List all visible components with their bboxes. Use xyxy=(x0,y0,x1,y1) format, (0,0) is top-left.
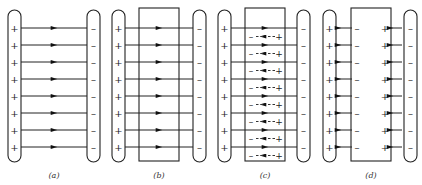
minus-charge: – xyxy=(197,57,202,68)
surface-minus: – xyxy=(355,74,360,85)
minus-charge: – xyxy=(91,125,96,136)
minus-charge: – xyxy=(91,23,96,34)
panel-label-c: (c) xyxy=(260,171,271,180)
minus-charge: – xyxy=(301,125,306,136)
minus-charge: – xyxy=(301,74,306,85)
surface-plus: + xyxy=(381,125,389,136)
panel-label-d: (d) xyxy=(365,171,376,180)
minus-charge: – xyxy=(197,142,202,153)
capacitor-diagram: +–+–+–+–+–+–+–+– +–+–+–+–+–+–+–+– +––++–… xyxy=(0,0,422,185)
plus-charge: + xyxy=(325,40,333,51)
induced-minus: – xyxy=(249,32,254,42)
plus-charge: + xyxy=(114,23,122,34)
induced-plus: + xyxy=(275,134,283,144)
minus-charge: – xyxy=(408,91,413,102)
plus-charge: + xyxy=(220,142,228,153)
minus-charge: – xyxy=(91,142,96,153)
minus-charge: – xyxy=(408,57,413,68)
panel-label-a: (a) xyxy=(48,171,59,180)
induced-minus: – xyxy=(249,100,254,110)
panel-b: +–+–+–+–+–+–+–+– xyxy=(112,8,206,162)
induced-plus: + xyxy=(275,66,283,76)
plus-charge: + xyxy=(114,40,122,51)
surface-minus: – xyxy=(355,142,360,153)
minus-charge: – xyxy=(91,74,96,85)
plus-charge: + xyxy=(10,108,18,119)
plus-charge: + xyxy=(10,125,18,136)
panel-label-b: (b) xyxy=(153,171,164,180)
induced-plus: + xyxy=(275,32,283,42)
induced-minus: – xyxy=(249,151,254,161)
minus-charge: – xyxy=(197,40,202,51)
minus-charge: – xyxy=(197,91,202,102)
minus-charge: – xyxy=(197,74,202,85)
surface-minus: – xyxy=(355,108,360,119)
plus-charge: + xyxy=(10,91,18,102)
plus-charge: + xyxy=(325,57,333,68)
surface-minus: – xyxy=(355,125,360,136)
plus-charge: + xyxy=(220,57,228,68)
minus-charge: – xyxy=(197,125,202,136)
induced-minus: – xyxy=(249,117,254,127)
induced-plus: + xyxy=(275,117,283,127)
surface-plus: + xyxy=(381,57,389,68)
minus-charge: – xyxy=(301,57,306,68)
plus-charge: + xyxy=(114,74,122,85)
induced-plus: + xyxy=(275,151,283,161)
minus-charge: – xyxy=(408,108,413,119)
plus-charge: + xyxy=(114,108,122,119)
minus-charge: – xyxy=(408,40,413,51)
plus-charge: + xyxy=(325,23,333,34)
surface-plus: + xyxy=(381,108,389,119)
surface-plus: + xyxy=(381,74,389,85)
plus-charge: + xyxy=(325,142,333,153)
plus-charge: + xyxy=(10,40,18,51)
surface-plus: + xyxy=(381,40,389,51)
surface-plus: + xyxy=(381,23,389,34)
plus-charge: + xyxy=(10,142,18,153)
plus-charge: + xyxy=(325,91,333,102)
plus-charge: + xyxy=(220,40,228,51)
minus-charge: – xyxy=(408,23,413,34)
minus-charge: – xyxy=(91,57,96,68)
plus-charge: + xyxy=(325,108,333,119)
plus-charge: + xyxy=(220,74,228,85)
induced-minus: – xyxy=(249,49,254,59)
plus-charge: + xyxy=(325,125,333,136)
plus-charge: + xyxy=(114,142,122,153)
plus-charge: + xyxy=(220,91,228,102)
minus-charge: – xyxy=(301,23,306,34)
plus-charge: + xyxy=(10,23,18,34)
plus-charge: + xyxy=(10,57,18,68)
plus-charge: + xyxy=(10,74,18,85)
minus-charge: – xyxy=(301,142,306,153)
minus-charge: – xyxy=(408,74,413,85)
plus-charge: + xyxy=(220,125,228,136)
dielectric-slab xyxy=(139,8,179,161)
minus-charge: – xyxy=(408,142,413,153)
induced-minus: – xyxy=(249,134,254,144)
induced-plus: + xyxy=(275,100,283,110)
surface-minus: – xyxy=(355,57,360,68)
minus-charge: – xyxy=(91,40,96,51)
minus-charge: – xyxy=(301,40,306,51)
surface-minus: – xyxy=(355,91,360,102)
minus-charge: – xyxy=(408,125,413,136)
minus-charge: – xyxy=(301,108,306,119)
minus-charge: – xyxy=(91,91,96,102)
minus-charge: – xyxy=(301,91,306,102)
minus-charge: – xyxy=(197,23,202,34)
plus-charge: + xyxy=(114,125,122,136)
induced-minus: – xyxy=(249,83,254,93)
plus-charge: + xyxy=(114,91,122,102)
plus-charge: + xyxy=(114,57,122,68)
minus-charge: – xyxy=(91,108,96,119)
surface-plus: + xyxy=(381,91,389,102)
induced-plus: + xyxy=(275,83,283,93)
surface-plus: + xyxy=(381,142,389,153)
plus-charge: + xyxy=(220,23,228,34)
plus-charge: + xyxy=(220,108,228,119)
panel-a: +–+–+–+–+–+–+–+– xyxy=(8,10,100,162)
induced-minus: – xyxy=(249,66,254,76)
panel-c: +––++––++––++––++––++––++––++––+ xyxy=(218,8,310,162)
